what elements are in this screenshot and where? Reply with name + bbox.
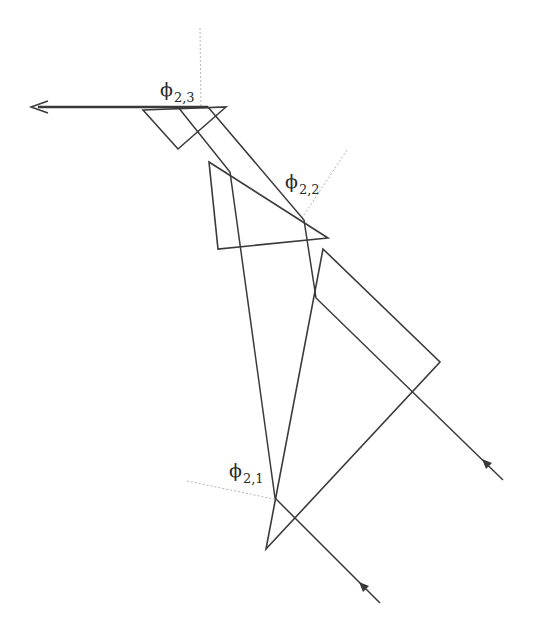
label-phi-2-1-symbol: ϕ — [229, 459, 242, 481]
label-phi-2-1: ϕ2,1 — [229, 461, 264, 480]
input-beam-2 — [208, 107, 503, 480]
prism-1 — [266, 249, 440, 549]
label-phi-2-1-subscript: 2,1 — [243, 471, 264, 486]
label-phi-2-3-symbol: ϕ — [160, 78, 173, 100]
label-phi-2-2: ϕ2,2 — [285, 172, 320, 191]
label-phi-2-3-subscript: 2,3 — [174, 90, 195, 105]
diagram-canvas: ϕ2,3 ϕ2,2 ϕ2,1 — [0, 0, 536, 641]
label-phi-2-2-symbol: ϕ — [285, 170, 298, 192]
ray-diagram — [0, 0, 536, 641]
label-phi-2-2-subscript: 2,2 — [299, 182, 320, 197]
normal-line-phi23 — [200, 28, 201, 108]
label-phi-2-3: ϕ2,3 — [160, 80, 195, 99]
input-beam-1 — [178, 107, 380, 603]
